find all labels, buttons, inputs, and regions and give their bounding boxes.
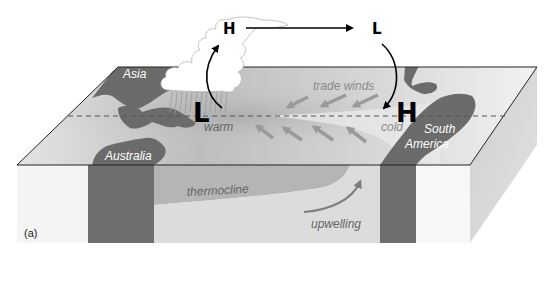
cold-label: cold: [381, 120, 403, 134]
south-america-label-line1: South: [424, 122, 456, 136]
south-america-crust-band: [380, 165, 416, 243]
ocean-cross-section: [17, 165, 470, 243]
south-america-label-line2: America: [404, 137, 449, 151]
asia-label: Asia: [122, 67, 147, 81]
upper-high-label: H: [223, 20, 236, 38]
australia-label: Australia: [104, 149, 152, 163]
panel-label: (a): [24, 227, 37, 239]
australia-crust-band: [88, 165, 154, 243]
trade-winds-label: trade winds: [313, 79, 374, 93]
warm-label: warm: [204, 120, 233, 134]
upwelling-label: upwelling: [311, 217, 361, 231]
upper-low-label: L: [372, 20, 382, 38]
walker-circulation-diagram: H L L H Asia Australia South America war…: [0, 0, 554, 293]
